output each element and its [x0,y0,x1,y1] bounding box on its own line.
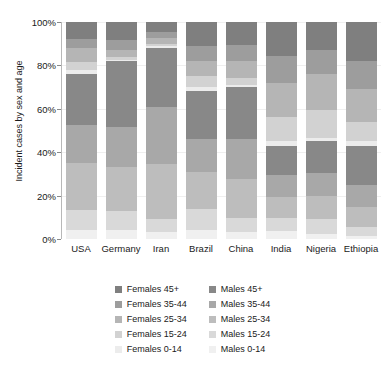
segment-males-25-34[interactable] [186,172,217,209]
bar-iran[interactable] [146,22,177,239]
segment-males-15-24[interactable] [186,209,217,231]
segment-males-15-24[interactable] [226,218,257,232]
bar-usa[interactable] [66,22,97,239]
legend-item-males-0-14[interactable]: Males 0-14 [209,343,271,356]
legend-item-males-35-44[interactable]: Males 35-44 [209,298,271,311]
segment-females-15-24[interactable] [66,62,97,70]
legend-item-label: Males 45+ [221,285,263,294]
segment-males-15-24[interactable] [346,227,377,236]
legend-item-females-45-[interactable]: Females 45+ [115,283,187,296]
bar-nigeria[interactable] [306,22,337,239]
segment-males-25-34[interactable] [266,197,297,219]
segment-females-45-[interactable] [66,22,97,39]
segment-males-0-14[interactable] [266,231,297,239]
segment-males-25-34[interactable] [346,207,377,227]
legend-item-females-25-34[interactable]: Females 25-34 [115,313,187,326]
segment-males-0-14[interactable] [306,234,337,239]
x-axis-label-iran: Iran [141,243,181,254]
segment-females-25-34[interactable] [306,74,337,110]
segment-females-25-34[interactable] [346,89,377,122]
segment-males-35-44[interactable] [346,185,377,208]
y-axis-tick-20: 20% [37,190,56,201]
bar-brazil[interactable] [186,22,217,239]
bar-slot-nigeria[interactable] [301,22,341,239]
segment-males-15-24[interactable] [106,211,137,231]
segment-males-35-44[interactable] [106,127,137,167]
segment-females-45-[interactable] [306,22,337,50]
segment-females-35-44[interactable] [106,40,137,50]
bar-germany[interactable] [106,22,137,239]
segment-females-25-34[interactable] [226,61,257,78]
segment-females-25-34[interactable] [186,61,217,76]
segment-females-15-24[interactable] [266,117,297,141]
segment-females-45-[interactable] [226,22,257,45]
segment-females-35-44[interactable] [186,46,217,61]
segment-males-45-[interactable] [266,146,297,175]
segment-males-0-14[interactable] [346,236,377,239]
segment-males-35-44[interactable] [306,173,337,196]
segment-males-25-34[interactable] [306,196,337,220]
segment-males-35-44[interactable] [226,139,257,179]
segment-males-35-44[interactable] [146,107,177,165]
segment-males-15-24[interactable] [266,218,297,231]
segment-females-45-[interactable] [106,22,137,40]
legend-item-females-15-24[interactable]: Females 15-24 [115,328,187,341]
segment-females-45-[interactable] [186,22,217,46]
bar-slot-india[interactable] [261,22,301,239]
y-axis-tick-0: 0% [42,234,56,245]
legend-item-males-25-34[interactable]: Males 25-34 [209,313,271,326]
segment-females-35-44[interactable] [226,45,257,61]
bar-slot-ethiopia[interactable] [341,22,381,239]
legend-item-label: Females 15-24 [127,330,187,339]
legend-item-females-35-44[interactable]: Females 35-44 [115,298,187,311]
legend-item-males-15-24[interactable]: Males 15-24 [209,328,271,341]
legend-item-females-0-14[interactable]: Females 0-14 [115,343,187,356]
segment-females-45-[interactable] [346,22,377,61]
segment-males-35-44[interactable] [186,139,217,172]
legend-item-males-45-[interactable]: Males 45+ [209,283,271,296]
legend-swatch-icon [209,346,216,353]
segment-males-15-24[interactable] [306,219,337,233]
segment-males-0-14[interactable] [106,230,137,239]
segment-females-35-44[interactable] [66,39,97,48]
segment-females-45-[interactable] [266,22,297,56]
segment-males-25-34[interactable] [66,163,97,210]
segment-females-35-44[interactable] [306,50,337,74]
segment-females-15-24[interactable] [186,76,217,87]
segment-males-45-[interactable] [66,74,97,125]
segment-males-0-14[interactable] [146,232,177,239]
segment-males-45-[interactable] [146,48,177,107]
segment-females-25-34[interactable] [266,83,297,118]
bar-india[interactable] [266,22,297,239]
segment-females-15-24[interactable] [306,110,337,138]
segment-males-0-14[interactable] [66,230,97,239]
segment-females-35-44[interactable] [346,61,377,89]
segment-males-0-14[interactable] [226,232,257,239]
bar-slot-china[interactable] [221,22,261,239]
segment-males-35-44[interactable] [266,175,297,197]
segment-males-25-34[interactable] [146,164,177,219]
segment-females-35-44[interactable] [266,56,297,83]
segment-males-45-[interactable] [186,91,217,139]
segment-males-0-14[interactable] [186,230,217,239]
segment-males-45-[interactable] [106,61,137,127]
segment-males-45-[interactable] [306,141,337,172]
segment-males-15-24[interactable] [146,219,177,232]
segment-males-25-34[interactable] [106,167,137,210]
bar-slot-germany[interactable] [101,22,141,239]
segment-females-45-[interactable] [146,22,177,32]
bar-slot-usa[interactable] [61,22,101,239]
segment-males-15-24[interactable] [66,210,97,231]
bar-slot-iran[interactable] [141,22,181,239]
segment-males-45-[interactable] [226,87,257,139]
bar-ethiopia[interactable] [346,22,377,239]
segment-males-35-44[interactable] [66,125,97,163]
legend-swatch-icon [115,316,122,323]
bar-slot-brazil[interactable] [181,22,221,239]
chart-legend: Females 45+Females 35-44Females 25-34Fem… [0,283,385,356]
segment-females-25-34[interactable] [66,48,97,62]
segment-males-25-34[interactable] [226,179,257,218]
segment-males-45-[interactable] [346,146,377,185]
segment-females-15-24[interactable] [346,122,377,142]
bar-china[interactable] [226,22,257,239]
